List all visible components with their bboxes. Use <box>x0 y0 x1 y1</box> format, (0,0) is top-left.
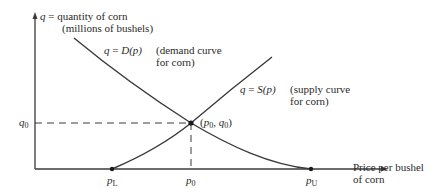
p0-sub: 0 <box>192 179 196 188</box>
y-axis-arrow-icon <box>33 12 38 19</box>
y-axis-eq: = <box>48 10 54 22</box>
q0-sub: 0 <box>25 121 29 130</box>
demand-eq: = <box>112 44 118 56</box>
supply-desc-2: for corn) <box>290 95 329 107</box>
equilibrium-label: (p0, q0) <box>200 116 232 128</box>
p0-label: p0 <box>186 174 196 186</box>
x-axis-label-1: Price per bushel <box>353 161 424 173</box>
demand-equation: q = D(p) <box>104 44 142 56</box>
pU-sub: U <box>312 179 318 188</box>
demand-desc-1: (demand curve <box>156 44 222 56</box>
supply-eq: = <box>248 83 254 95</box>
eq-close: ) <box>228 116 232 128</box>
supply-lhs: q <box>240 83 246 95</box>
pL-label: pL <box>107 174 117 186</box>
pU-point <box>309 167 313 171</box>
pU-label: pU <box>306 174 317 186</box>
supply-rhs: S(p) <box>257 83 275 95</box>
pL-sub: L <box>113 179 118 188</box>
supply-desc-1: (supply curve <box>290 83 350 95</box>
demand-rhs: D(p) <box>121 44 142 56</box>
supply-equation: q = S(p) <box>240 83 276 95</box>
y-axis-label: q = quantity of corn <box>40 10 127 22</box>
x-axis-label-2: of corn <box>353 173 384 185</box>
demand-desc-2: for corn) <box>156 56 195 68</box>
demand-lhs: q <box>104 44 110 56</box>
y-axis-var: q <box>40 10 46 22</box>
q0-label: q0 <box>19 116 29 128</box>
pL-point <box>110 167 114 171</box>
y-axis-units: (millions of bushels) <box>62 22 153 34</box>
equilibrium-point <box>188 120 193 125</box>
y-axis-text: quantity of corn <box>57 10 127 22</box>
